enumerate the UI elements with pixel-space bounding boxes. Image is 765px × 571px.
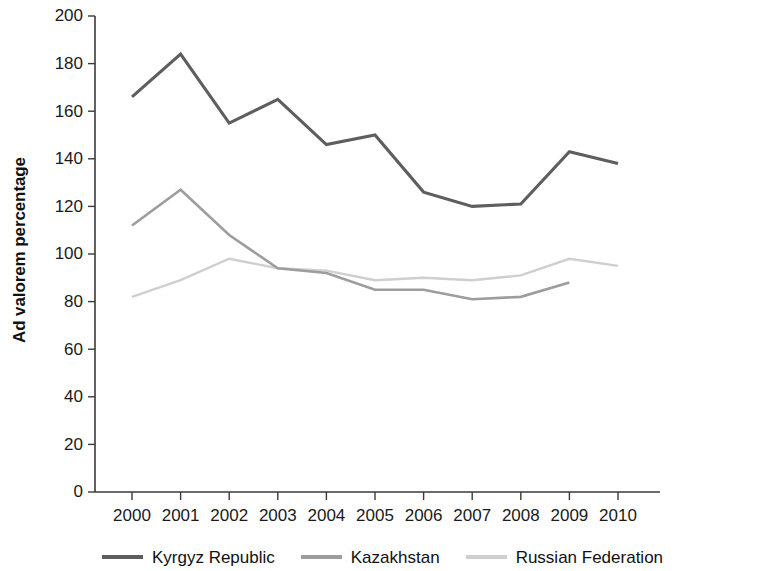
series-line-russian-federation [132,259,618,297]
x-tick-label: 2010 [599,506,637,525]
series-line-kyrgyz-republic [132,54,618,206]
legend-swatch-icon [102,555,143,559]
legend-item[interactable]: Russian Federation [466,549,663,566]
y-tick-label: 100 [55,244,83,263]
legend-swatch-icon [466,555,507,559]
y-tick-label: 60 [64,340,83,359]
plot-area: 0204060801001201401601802002000200120022… [0,0,765,543]
x-tick-label: 2003 [259,506,297,525]
legend-swatch-icon [301,555,342,559]
x-tick-label: 2005 [356,506,394,525]
y-tick-label: 40 [64,387,83,406]
legend-label: Russian Federation [516,549,663,566]
x-tick-label: 2001 [162,506,200,525]
x-tick-label: 2006 [405,506,443,525]
x-tick-label: 2007 [453,506,491,525]
chart-legend: Kyrgyz RepublicKazakhstanRussian Federat… [0,543,765,571]
y-tick-label: 80 [64,292,83,311]
x-tick-label: 2000 [113,506,151,525]
x-tick-label: 2008 [502,506,540,525]
legend-label: Kazakhstan [351,549,440,566]
y-tick-label: 0 [74,482,83,501]
y-tick-label: 160 [55,102,83,121]
legend-item[interactable]: Kyrgyz Republic [102,549,275,566]
x-tick-label: 2009 [550,506,588,525]
legend-label: Kyrgyz Republic [152,549,275,566]
y-tick-label: 140 [55,149,83,168]
y-tick-label: 20 [64,435,83,454]
y-tick-label: 200 [55,6,83,25]
x-tick-label: 2002 [210,506,248,525]
y-tick-label: 120 [55,197,83,216]
x-tick-label: 2004 [307,506,345,525]
y-tick-label: 180 [55,54,83,73]
line-chart: Ad valorem percentage 020406080100120140… [0,0,765,571]
legend-item[interactable]: Kazakhstan [301,549,440,566]
